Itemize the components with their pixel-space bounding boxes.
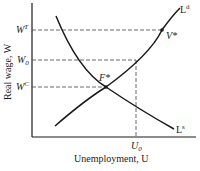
wc-label: WC	[16, 80, 29, 92]
f-star-point	[104, 85, 108, 89]
ld-label: Ld	[180, 3, 190, 15]
u0-label: U0	[131, 140, 142, 153]
f-star-label: F*	[98, 72, 110, 83]
w0-label: W0	[17, 54, 29, 67]
v-star-point	[160, 28, 164, 32]
x-axis-title: Unemployment, U	[74, 153, 149, 164]
v-star-label: V*	[166, 30, 177, 41]
wage-unemployment-diagram: Real wage, W WT W0 WC U0 Unemployment, U…	[0, 0, 200, 171]
y-axis-title: Real wage, W	[2, 43, 13, 100]
wt-label: WT	[16, 23, 29, 35]
labor-demand-curve	[55, 8, 180, 126]
labor-supply-curve	[56, 16, 174, 129]
ls-label: Ls	[176, 123, 185, 135]
